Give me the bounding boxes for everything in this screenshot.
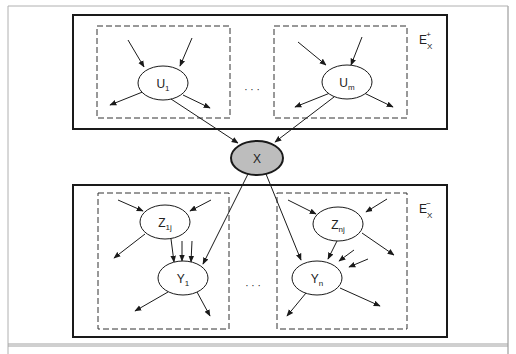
node-znj: Znj	[288, 199, 394, 255]
e-plus-label: EX+	[419, 30, 433, 51]
svg-text:X: X	[253, 152, 261, 166]
diagram-canvas: · · · EX+ U1 Um X · · · EX−	[0, 0, 516, 354]
node-y1: Y1	[135, 239, 210, 316]
outer-frame	[8, 6, 508, 354]
top-evidence-box: · · · EX+	[73, 15, 447, 129]
node-z1j: Z1j	[114, 200, 211, 258]
bottom-evidence-box: · · · EX−	[73, 185, 447, 337]
node-um: Um	[295, 37, 393, 107]
e-minus-label: EX−	[419, 199, 433, 220]
top-ellipsis: · · ·	[244, 84, 260, 95]
edge-x-y1	[203, 174, 248, 264]
node-x: X	[231, 141, 283, 175]
edge-x-yn	[266, 174, 301, 260]
edge-um-x	[275, 97, 334, 142]
bottom-ellipsis: · · ·	[245, 280, 261, 291]
node-u1: U1	[110, 38, 210, 108]
node-yn: Yn	[287, 241, 380, 316]
